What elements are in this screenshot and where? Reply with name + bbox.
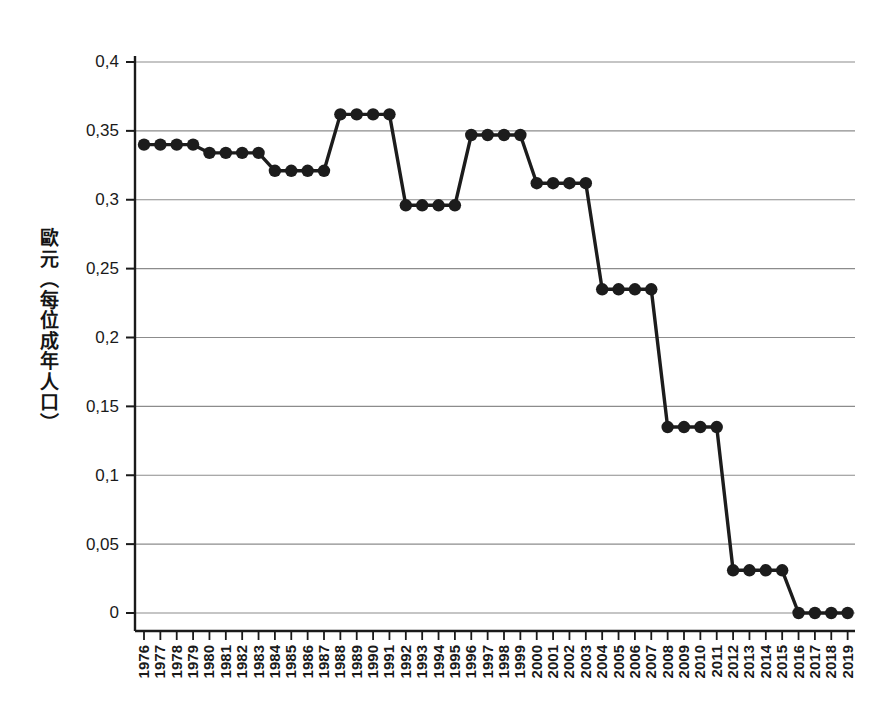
x-tick-label: 1991 [380,645,397,678]
x-tick-label: 1986 [299,645,316,678]
data-point [809,607,821,619]
data-point [563,177,575,189]
data-point [760,564,772,576]
y-tick-label: 0 [110,603,119,622]
data-point [383,108,395,120]
data-point [236,147,248,159]
x-tick-label: 2002 [560,645,577,678]
data-point [400,199,412,211]
y-tick-label: 0,4 [95,52,119,71]
data-point [792,607,804,619]
data-point [743,564,755,576]
data-point [596,283,608,295]
x-tick-label: 2005 [610,645,627,678]
x-tick-label: 2006 [626,645,643,678]
data-point [154,138,166,150]
x-tick-label: 2014 [757,644,774,678]
data-point [481,129,493,141]
x-tick-label: 1988 [331,645,348,678]
data-point [138,138,150,150]
x-tick-label: 2008 [659,645,676,678]
y-tick-label: 0,1 [95,466,119,485]
x-tick-label: 1978 [168,645,185,678]
data-point [727,564,739,576]
x-tick-label-group: 1976197719781979198019811982198319841985… [135,644,856,678]
data-point [498,129,510,141]
x-tick-label: 1994 [430,644,447,678]
data-point [547,177,559,189]
data-point [645,283,657,295]
gridlines-group [135,62,855,613]
x-tick-label: 1984 [266,644,283,678]
data-point [269,165,281,177]
x-tick-label: 2010 [691,645,708,678]
data-point [465,129,477,141]
data-point [171,138,183,150]
plot-area: 00,050,10,150,20,250,30,350,4 1976197719… [0,0,883,722]
x-tick-label: 1998 [495,645,512,678]
x-tick-label: 1995 [446,645,463,678]
x-tick-label: 1997 [479,645,496,678]
data-point [351,108,363,120]
data-point [711,421,723,433]
x-tick-label: 1993 [413,645,430,678]
data-point [367,108,379,120]
x-tick-group [144,631,848,640]
data-point [514,129,526,141]
x-tick-label: 1987 [315,645,332,678]
x-tick-label: 2009 [675,645,692,678]
x-tick-label: 2000 [528,645,545,678]
y-tick-label: 0,2 [95,328,119,347]
data-point [334,108,346,120]
data-point [531,177,543,189]
data-series-line [144,114,848,613]
data-point [203,147,215,159]
data-point [678,421,690,433]
x-tick-label: 2004 [593,644,610,678]
data-point [694,421,706,433]
data-point [825,607,837,619]
x-tick-label: 1976 [135,645,152,678]
x-tick-label: 1999 [511,645,528,678]
data-point [220,147,232,159]
x-tick-label: 1983 [250,645,267,678]
y-tick-label: 0,25 [86,259,119,278]
x-tick-label: 1992 [397,645,414,678]
x-tick-label: 1989 [348,645,365,678]
x-tick-label: 1985 [282,645,299,678]
data-point [661,421,673,433]
data-point [580,177,592,189]
data-point [449,199,461,211]
data-point [776,564,788,576]
chart-container: 歐元（每位成年人口） 00,050,10,150,20,250,30,350,4… [0,0,883,722]
x-tick-label: 2012 [724,645,741,678]
data-point [187,138,199,150]
data-point [301,165,313,177]
y-tick-group: 00,050,10,150,20,250,30,350,4 [86,52,135,622]
x-tick-label: 2016 [790,645,807,678]
x-tick-label: 1979 [184,645,201,678]
x-tick-label: 1980 [200,645,217,678]
data-point [285,165,297,177]
x-tick-label: 2013 [740,645,757,678]
data-point [252,147,264,159]
x-tick-label: 2018 [822,645,839,678]
x-tick-label: 1982 [233,645,250,678]
data-point [416,199,428,211]
data-point [841,607,853,619]
y-tick-label: 0,3 [95,190,119,209]
data-point-markers [138,108,854,619]
x-tick-label: 2001 [544,645,561,678]
x-tick-label: 1981 [217,645,234,678]
x-tick-label: 1990 [364,645,381,678]
data-point [432,199,444,211]
x-tick-label: 2015 [773,645,790,678]
x-tick-label: 2019 [839,645,856,678]
x-tick-label: 1977 [151,645,168,678]
x-tick-label: 2017 [806,645,823,678]
x-tick-label: 2007 [642,645,659,678]
y-tick-label: 0,15 [86,397,119,416]
x-tick-label: 2011 [708,645,725,678]
y-tick-label: 0,35 [86,121,119,140]
x-tick-label: 1996 [462,645,479,678]
